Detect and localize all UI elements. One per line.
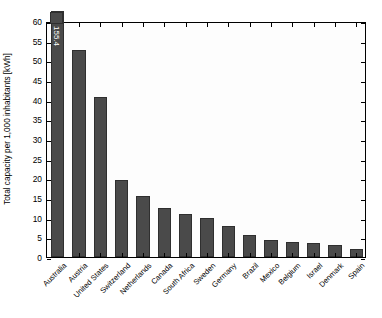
x-axis-tick-mark-top [164,23,165,27]
x-axis-tick-mark-top [100,23,101,27]
y-axis-tick-mark-right [361,180,365,181]
y-axis-tick-mark-right [361,200,365,201]
y-axis-tick-label: 55 [0,37,42,47]
x-axis-tick-mark [186,253,187,257]
y-axis-tick-mark [47,259,51,260]
y-axis-tick-mark-right [361,102,365,103]
bar[interactable] [72,50,85,257]
y-axis-tick-mark-right [361,82,365,83]
y-axis-tick-mark-right [361,220,365,221]
x-axis-tick-mark [271,253,272,257]
y-axis-tick-label: 10 [0,214,42,224]
x-axis-tick-mark [356,253,357,257]
x-axis-tick-mark [250,253,251,257]
y-axis-tick-label: 50 [0,56,42,66]
x-axis-tick-mark [100,253,101,257]
y-axis-tick-label: 45 [0,76,42,86]
bar-chart-figure: Total capacity per 1,000 inhabitants [kW… [0,0,382,318]
y-axis-tick-mark-right [361,239,365,240]
x-axis-tick-mark [292,253,293,257]
x-axis-tick-mark-top [79,23,80,27]
y-axis-tick-label: 0 [0,253,42,263]
y-axis-tick-label: 5 [0,233,42,243]
x-axis-tick-mark-top [122,23,123,27]
x-axis-tick-mark-top [271,23,272,27]
bar-value-label: 155.4 [52,26,61,46]
x-axis-tick-mark [143,253,144,257]
bar[interactable] [158,208,171,257]
bar[interactable] [94,97,107,257]
plot-inner [47,23,365,257]
x-axis-tick-mark [164,253,165,257]
y-axis-tick-label: 15 [0,194,42,204]
y-axis-tick-mark-right [361,23,365,24]
y-axis-tick-label: 20 [0,174,42,184]
x-axis-tick-mark [314,253,315,257]
bar[interactable] [200,218,213,257]
x-axis-tick-mark-top [207,23,208,27]
y-axis-tick-label: 60 [0,17,42,27]
x-axis-tick-mark [228,253,229,257]
x-axis-tick-mark [335,253,336,257]
y-axis-tick-mark-right [361,161,365,162]
bar[interactable] [136,196,149,257]
x-axis-tick-mark-top [314,23,315,27]
bar-overflow-cap [50,12,63,24]
x-axis-tick-mark-top [356,23,357,27]
y-axis-tick-label: 40 [0,96,42,106]
bar[interactable] [115,180,128,257]
y-axis-tick-label: 25 [0,155,42,165]
x-axis-tick-mark-top [228,23,229,27]
x-axis-tick-mark [207,253,208,257]
x-axis-tick-mark-top [186,23,187,27]
plot-area [46,22,366,258]
bar[interactable] [51,11,64,257]
y-axis-tick-mark-right [361,121,365,122]
y-axis-tick-mark-right [361,141,365,142]
x-axis-tick-mark-top [335,23,336,27]
y-axis-tick-label: 35 [0,115,42,125]
x-axis-tick-mark [122,253,123,257]
x-axis-tick-mark-top [292,23,293,27]
x-axis-tick-mark-top [143,23,144,27]
bar[interactable] [179,214,192,257]
x-axis-tick-mark-top [250,23,251,27]
y-axis-tick-mark-right [361,43,365,44]
x-axis-tick-mark [79,253,80,257]
y-axis-tick-label: 30 [0,135,42,145]
y-axis-tick-mark-right [361,259,365,260]
y-axis-tick-mark-right [361,62,365,63]
